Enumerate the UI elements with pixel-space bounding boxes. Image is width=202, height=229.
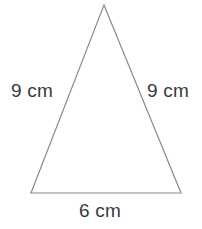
right-side-length-label: 9 cm bbox=[147, 81, 189, 100]
base-length-label: 6 cm bbox=[79, 201, 121, 220]
left-side-length-label: 9 cm bbox=[11, 81, 53, 100]
geometry-figure: 9 cm 9 cm 6 cm bbox=[0, 0, 202, 229]
triangle-shape bbox=[0, 0, 202, 229]
